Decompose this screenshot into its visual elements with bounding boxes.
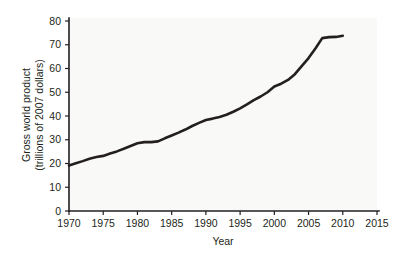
x-tick-label: 1985 bbox=[160, 217, 184, 229]
x-tick-label: 2010 bbox=[331, 217, 355, 229]
x-tick-label: 2005 bbox=[297, 217, 321, 229]
x-tick-label: 2015 bbox=[365, 217, 389, 229]
y-tick-label: 10 bbox=[49, 181, 61, 193]
y-tick-label: 50 bbox=[49, 86, 61, 98]
x-tick-label: 1990 bbox=[194, 217, 218, 229]
y-axis-title-line1: Gross world product bbox=[20, 68, 32, 162]
chart-svg: 01020304050607080 1970197519801985199019… bbox=[0, 0, 414, 262]
y-tick-label: 20 bbox=[49, 157, 61, 169]
y-tick-label: 60 bbox=[49, 62, 61, 74]
x-axis-title: Year bbox=[212, 235, 234, 247]
x-axis-ticks: 1970197519801985199019952000200520102015 bbox=[57, 211, 389, 229]
y-tick-label: 30 bbox=[49, 133, 61, 145]
x-tick-label: 1970 bbox=[57, 217, 81, 229]
x-tick-label: 1975 bbox=[92, 217, 116, 229]
y-axis-title-line2: (trillions of 2007 dollars) bbox=[33, 59, 45, 170]
y-tick-label: 0 bbox=[55, 205, 61, 217]
y-tick-label: 80 bbox=[49, 15, 61, 27]
y-tick-label: 40 bbox=[49, 110, 61, 122]
x-tick-label: 1980 bbox=[126, 217, 150, 229]
x-tick-label: 2000 bbox=[263, 217, 287, 229]
chart-figure: 01020304050607080 1970197519801985199019… bbox=[0, 0, 414, 262]
x-tick-label: 1995 bbox=[228, 217, 252, 229]
plot-background bbox=[69, 18, 377, 211]
y-axis-ticks: 01020304050607080 bbox=[49, 15, 69, 217]
y-tick-label: 70 bbox=[49, 38, 61, 50]
